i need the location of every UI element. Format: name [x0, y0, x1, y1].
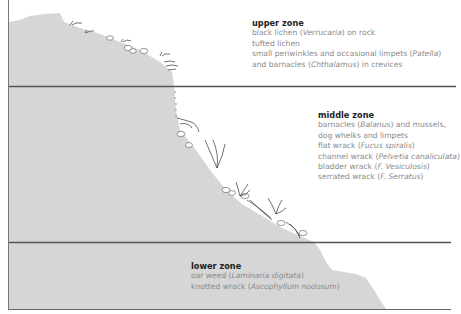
species-line: tufted lichen [252, 39, 441, 49]
species-line: black lichen (Verrucaria) on rock [252, 28, 441, 38]
species-line: knotted wrack (Ascophyllum nodosum) [191, 282, 340, 292]
species-line: oar weed (Laminaria digitata) [191, 271, 340, 281]
upper-zone-label: upper zone black lichen (Verrucaria) on … [252, 18, 441, 70]
species-line: barnacles (Balanus) and mussels, [318, 120, 460, 130]
species-line: small periwinkles and occasional limpets… [252, 49, 441, 59]
species-line: bladder wrack (F. Vesiculosis) [318, 162, 460, 172]
species-line: and barnacles (Chthalamus) in crevices [252, 60, 441, 70]
zone-species-list: black lichen (Verrucaria) on rocktufted … [252, 28, 441, 70]
species-line: serrated wrack (F. Serratus) [318, 172, 460, 182]
species-line: flat wrack (Fucus spiralis) [318, 141, 460, 151]
middle-zone-label: middle zone barnacles (Balanus) and muss… [318, 110, 460, 183]
species-line: dog whelks and limpets [318, 131, 460, 141]
zone-title: upper zone [252, 18, 441, 28]
zone-species-list: oar weed (Laminaria digitata)knotted wra… [191, 271, 340, 292]
species-line: channel wrack (Pelvetia canaliculata) [318, 152, 460, 162]
zone-title: middle zone [318, 110, 460, 120]
zone-species-list: barnacles (Balanus) and mussels,dog whel… [318, 120, 460, 182]
zone-title: lower zone [191, 261, 340, 271]
lower-zone-label: lower zone oar weed (Laminaria digitata)… [191, 261, 340, 292]
